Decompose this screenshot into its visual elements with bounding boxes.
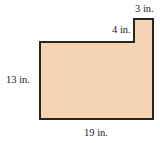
label-bottom-width: 19 in.: [84, 128, 108, 139]
label-left-height: 13 in.: [6, 75, 30, 86]
label-tab-width: 3 in.: [135, 4, 154, 15]
label-tab-height: 4 in.: [112, 25, 131, 36]
composite-shape-figure: [0, 0, 160, 143]
l-shaped-polygon: [40, 19, 153, 119]
